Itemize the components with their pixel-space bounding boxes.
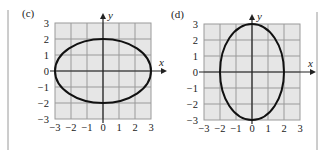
x-tick-label: −1 <box>230 123 241 134</box>
y-axis-arrow-icon <box>249 14 255 20</box>
y-tick-label: 1 <box>193 51 198 62</box>
y-tick-label: 0 <box>44 66 49 77</box>
x-tick-label: 1 <box>116 122 121 133</box>
panel-c: (c)xy−3−2−101233210−1−2−3 <box>22 7 167 133</box>
x-axis-label: x <box>307 57 313 69</box>
y-tick-label: −3 <box>187 115 198 126</box>
y-tick-label: 2 <box>193 35 198 46</box>
y-tick-label: −2 <box>38 98 49 109</box>
y-tick-label: 0 <box>193 67 198 78</box>
x-tick-label: 2 <box>132 122 137 133</box>
x-tick-label: −2 <box>214 123 225 134</box>
x-axis-arrow-icon <box>310 69 316 75</box>
x-tick-label: 3 <box>297 123 302 134</box>
x-axis-arrow-icon <box>161 68 167 74</box>
y-tick-label: −1 <box>187 83 198 94</box>
y-tick-label: 3 <box>193 19 198 30</box>
y-axis-label: y <box>107 9 113 21</box>
y-tick-label: −1 <box>38 82 49 93</box>
x-tick-label: −2 <box>65 122 76 133</box>
x-tick-label: 2 <box>281 123 286 134</box>
y-tick-label: 2 <box>44 34 49 45</box>
x-tick-label: 0 <box>100 122 105 133</box>
x-axis-label: x <box>158 56 164 68</box>
y-axis-label: y <box>256 10 262 22</box>
y-tick-label: 3 <box>44 18 49 29</box>
x-tick-label: −1 <box>81 122 92 133</box>
x-tick-label: 1 <box>265 123 270 134</box>
x-tick-label: 0 <box>249 123 254 134</box>
y-axis-arrow-icon <box>100 13 106 19</box>
panel-label: (c) <box>22 7 35 20</box>
x-tick-label: 3 <box>148 122 153 133</box>
figure: (c)xy−3−2−101233210−1−2−3 (d)xy−3−2−1012… <box>0 0 328 155</box>
panel-d: (d)xy−3−2−101233210−1−2−3 <box>171 8 316 134</box>
y-tick-label: −3 <box>38 114 49 125</box>
y-tick-label: 1 <box>44 50 49 61</box>
y-tick-label: −2 <box>187 99 198 110</box>
panel-label: (d) <box>171 8 184 21</box>
x-tick-label: −3 <box>49 122 60 133</box>
x-tick-label: −3 <box>198 123 209 134</box>
